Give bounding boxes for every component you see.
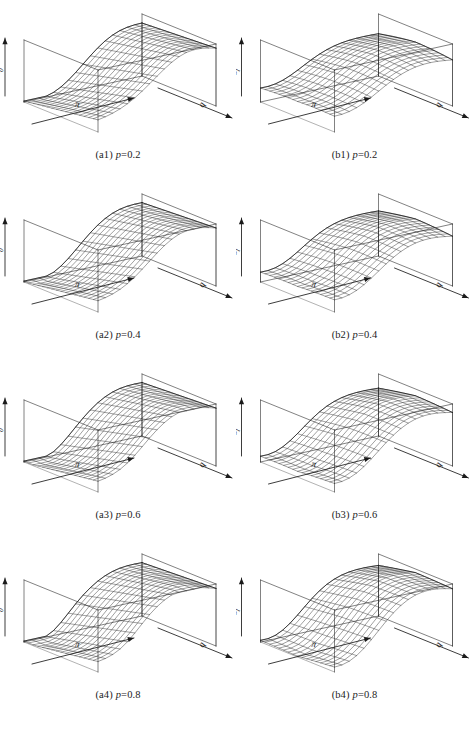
plot-box: [261, 194, 453, 312]
panel-parameter-expression-b2: p=0.4: [353, 329, 378, 340]
x-axis-arrow: [32, 97, 134, 124]
surface-plot-svg: πqℰ0: [0, 180, 236, 330]
panel-tag-b2: (b2): [332, 329, 350, 340]
x-axis-arrow: [269, 97, 371, 124]
surface-plot-svg: πqℰ0: [0, 360, 236, 510]
surface-skirt: [261, 34, 453, 106]
z-axis-arrow: [239, 218, 244, 276]
z-axis-label: ℰ1: [236, 426, 241, 439]
panel-parameter-value: =0.2: [358, 149, 377, 160]
panel-tag-b4: (b4): [332, 689, 350, 700]
z-axis-label-subscript: 1: [236, 427, 241, 433]
z-axis-label: ℰ1: [236, 246, 241, 259]
surface-plot-area-a3: πqℰ0: [0, 360, 236, 510]
z-axis-label-subscript: 0: [0, 427, 5, 433]
panel-parameter-expression-a1: p=0.2: [116, 149, 141, 160]
y-axis-label: q: [432, 640, 443, 649]
surface-plot-area-a1: πqℰ0: [0, 0, 236, 150]
surface-mesh: [261, 565, 453, 667]
surface-plot-area-b1: πqℰ1: [236, 0, 473, 150]
y-axis-label: q: [432, 460, 443, 469]
y-axis-label: q: [432, 280, 443, 289]
y-axis-label: q: [432, 100, 443, 109]
panel-tag-a4: (a4): [95, 689, 112, 700]
panel-parameter-expression-b3: p=0.6: [353, 509, 378, 520]
panel-caption-b4: (b4)p=0.8: [236, 689, 473, 700]
surface-skirt: [24, 383, 216, 466]
z-axis-label-subscript: 1: [236, 247, 241, 253]
surface-skirt: [24, 563, 216, 646]
panel-caption-a4: (a4)p=0.8: [0, 689, 236, 700]
y-axis-label: q: [196, 100, 207, 109]
panel-caption-b1: (b1)p=0.2: [236, 149, 473, 160]
surface-plot-area-b2: πqℰ1: [236, 180, 473, 330]
z-axis-label-subscript: 1: [236, 607, 241, 613]
figure-grid: πqℰ0 (a1)p=0.2 πqℰ1 (b1)p=0.2 πqℰ0 (a2)p…: [0, 0, 473, 730]
z-axis-arrow: [239, 38, 244, 96]
surface-panel-b4: πqℰ1 (b4)p=0.8: [236, 540, 473, 730]
panel-tag-b3: (b3): [332, 509, 350, 520]
x-axis-arrow: [269, 457, 371, 484]
z-axis-label: ℰ0: [0, 425, 5, 438]
y-axis-arrow: [395, 628, 469, 658]
panel-tag-a2: (a2): [95, 329, 112, 340]
y-axis-label: q: [196, 640, 207, 649]
x-axis-label: π: [311, 459, 318, 470]
z-axis-label: ℰ1: [236, 66, 241, 79]
z-axis-label: ℰ0: [0, 605, 5, 618]
z-axis-label: ℰ0: [0, 65, 5, 78]
surface-plot-area-b4: πqℰ1: [236, 540, 473, 690]
surface-mesh: [24, 383, 216, 482]
z-axis-label: ℰ1: [236, 606, 241, 619]
panel-tag-a1: (a1): [95, 149, 112, 160]
x-axis-label: π: [311, 279, 318, 290]
z-axis-arrow: [2, 398, 7, 456]
panel-caption-b2: (b2)p=0.4: [236, 329, 473, 340]
y-axis-arrow: [158, 628, 232, 658]
z-axis-arrow: [2, 38, 7, 96]
surface-mesh: [261, 34, 453, 117]
y-axis-arrow: [158, 448, 232, 478]
surface-mesh: [261, 388, 453, 483]
surface-mesh: [24, 23, 216, 120]
y-axis-label: q: [196, 460, 207, 469]
plot-box: [261, 14, 453, 132]
panel-parameter-value: =0.4: [121, 329, 140, 340]
y-axis-arrow: [395, 268, 469, 298]
panel-parameter-expression-a3: p=0.6: [116, 509, 141, 520]
surface-plot-area-b3: πqℰ1: [236, 360, 473, 510]
x-axis-label: π: [74, 639, 81, 650]
surface-plot-svg: πqℰ0: [0, 0, 236, 150]
z-axis-arrow: [2, 218, 7, 276]
panel-parameter-expression-a2: p=0.4: [116, 329, 141, 340]
surface-mesh: [24, 563, 216, 662]
y-axis-arrow: [395, 448, 469, 478]
plot-box: [24, 14, 216, 132]
plot-box: [261, 374, 453, 492]
panel-caption-b3: (b3)p=0.6: [236, 509, 473, 520]
surface-plot-svg: πqℰ1: [236, 180, 473, 330]
z-axis-label-subscript: 0: [0, 607, 5, 613]
z-axis-arrow: [239, 398, 244, 456]
surface-plot-area-a4: πqℰ0: [0, 540, 236, 690]
panel-caption-a1: (a1)p=0.2: [0, 149, 236, 160]
panel-caption-a2: (a2)p=0.4: [0, 329, 236, 340]
z-axis-arrow: [239, 578, 244, 636]
surface-plot-area-a2: πqℰ0: [0, 180, 236, 330]
y-axis-arrow: [158, 268, 232, 298]
surface-plot-svg: πqℰ0: [0, 540, 236, 690]
z-axis-label-subscript: 1: [236, 67, 241, 73]
y-axis-arrow: [395, 88, 469, 118]
surface-panel-b3: πqℰ1 (b3)p=0.6: [236, 360, 473, 540]
panel-parameter-value: =0.6: [121, 509, 140, 520]
panel-caption-a3: (a3)p=0.6: [0, 509, 236, 520]
panel-parameter-value: =0.8: [121, 689, 140, 700]
panel-parameter-value: =0.4: [358, 329, 377, 340]
y-axis-label: q: [196, 280, 207, 289]
surface-panel-b2: πqℰ1 (b2)p=0.4: [236, 180, 473, 360]
x-axis-arrow: [269, 637, 371, 664]
panel-parameter-value: =0.8: [358, 689, 377, 700]
z-axis-label: ℰ0: [0, 245, 5, 258]
panel-tag-b1: (b1): [332, 149, 350, 160]
x-axis-label: π: [311, 639, 318, 650]
